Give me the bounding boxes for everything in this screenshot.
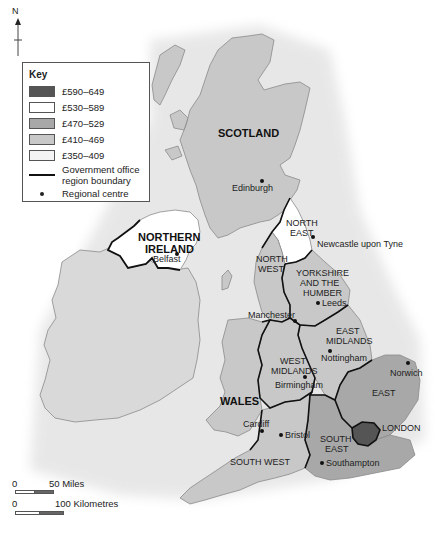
label-yh-2: AND THE [300, 278, 339, 288]
key-title: Key [29, 69, 143, 80]
scale-bar: 0 50 Miles 0 100 Kilometres [12, 478, 152, 526]
key-boundary-line2: region boundary [62, 175, 131, 186]
scale-km-zero: 0 [12, 498, 17, 509]
north-arrow: N [10, 6, 26, 58]
city-nottingham: Nottingham [321, 353, 367, 363]
scale-miles-seg-2 [34, 490, 54, 494]
city-birmingham: Birmingham [275, 380, 323, 390]
city-belfast: Belfast [153, 254, 181, 264]
key-label: £590–649 [62, 86, 104, 97]
city-southampton: Southampton [326, 458, 380, 468]
city-edinburgh: Edinburgh [232, 183, 273, 193]
city-newcastle: Newcastle upon Tyne [317, 239, 403, 249]
key-swatch [29, 102, 55, 113]
label-se-2: EAST [325, 444, 349, 454]
key-swatch [29, 150, 55, 161]
boundary-line-icon [29, 174, 55, 176]
scale-km-seg-1 [15, 511, 40, 515]
key-boundary-line1: Government office [62, 164, 139, 175]
label-ne-2: EAST [290, 228, 314, 238]
key-item-boundary: Government office region boundary [29, 164, 143, 186]
key-label: £530–589 [62, 102, 104, 113]
key-item-350-409: £350–409 [29, 147, 143, 163]
city-cardiff: Cardiff [243, 419, 270, 429]
key-item-regional-centre: Regional centre [29, 186, 143, 201]
key-label: £410–469 [62, 134, 104, 145]
label-south-west: SOUTH WEST [230, 457, 291, 467]
label-em-1: EAST [336, 326, 360, 336]
scale-km-label: 100 Kilometres [55, 498, 118, 509]
key-item-410-469: £410–469 [29, 131, 143, 147]
key-swatch [29, 118, 55, 129]
scale-miles-label: 50 Miles [49, 478, 84, 489]
label-wales: WALES [220, 395, 259, 407]
key-item-590-649: £590–649 [29, 83, 143, 99]
label-east: EAST [372, 388, 396, 398]
key-label: £350–409 [62, 150, 104, 161]
scale-miles-zero: 0 [12, 478, 17, 489]
label-yh-3: HUMBER [303, 288, 343, 298]
label-scotland: SCOTLAND [218, 127, 279, 139]
label-london: LONDON [382, 423, 421, 433]
key-item-470-529: £470–529 [29, 115, 143, 131]
label-em-2: MIDLANDS [326, 336, 373, 346]
map-key: Key £590–649 £530–589 £470–529 £410–469 … [22, 62, 150, 202]
key-label: £470–529 [62, 118, 104, 129]
city-bristol: Bristol [285, 430, 310, 440]
key-label: Government office region boundary [62, 164, 139, 186]
label-se-1: SOUTH [320, 434, 352, 444]
label-nw-2: WEST [258, 264, 285, 274]
city-norwich: Norwich [390, 368, 423, 378]
label-wm-1: WEST [280, 356, 307, 366]
north-arrow-icon [10, 6, 26, 58]
key-swatch [29, 134, 55, 145]
key-item-530-589: £530–589 [29, 99, 143, 115]
scale-km-seg-2 [39, 511, 64, 515]
city-leeds: Leeds [322, 298, 347, 308]
label-wm-2: MIDLANDS [271, 366, 318, 376]
key-label: Regional centre [62, 188, 129, 199]
city-manchester: Manchester [248, 310, 295, 320]
label-yh-1: YORKSHIRE [296, 268, 349, 278]
label-ni-1: NORTHERN [138, 231, 200, 243]
scale-miles-seg-1 [15, 490, 35, 494]
dot-icon [29, 192, 55, 196]
label-ne-1: NORTH [286, 218, 318, 228]
label-nw-1: NORTH [256, 254, 288, 264]
key-swatch [29, 86, 55, 97]
